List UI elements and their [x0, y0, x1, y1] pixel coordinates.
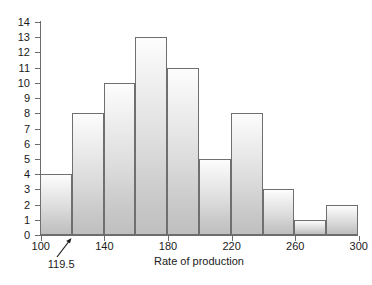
y-tick [35, 159, 40, 160]
x-tick-label: 300 [350, 240, 368, 252]
y-tick-label: 9 [12, 93, 30, 104]
y-tick-label: 1 [12, 215, 30, 226]
y-tick-label: 3 [12, 184, 30, 195]
y-tick [35, 68, 40, 69]
histogram-chart: 01234567891011121314 100140180220260300 … [0, 0, 372, 285]
histogram-bar [167, 68, 199, 235]
y-tick-label: 7 [12, 124, 30, 135]
y-tick-label: 4 [12, 169, 30, 180]
y-tick [35, 235, 40, 236]
y-tick-label: 12 [12, 47, 30, 58]
y-tick [35, 83, 40, 84]
histogram-bar [326, 205, 358, 235]
histogram-bar [40, 174, 72, 235]
y-tick-label: 2 [12, 200, 30, 211]
histogram-bar [294, 220, 326, 235]
y-tick [35, 22, 40, 23]
y-tick [35, 52, 40, 53]
x-tick-label: 220 [222, 240, 240, 252]
y-tick-label: 14 [12, 17, 30, 28]
y-tick [35, 98, 40, 99]
histogram-bar [263, 189, 295, 235]
x-axis-line [40, 235, 358, 236]
y-tick [35, 129, 40, 130]
y-tick-label: 11 [12, 63, 30, 74]
x-tick-label: 140 [95, 240, 113, 252]
y-tick-label: 8 [12, 108, 30, 119]
histogram-bar [199, 159, 231, 235]
x-tick-label: 180 [159, 240, 177, 252]
y-tick [35, 37, 40, 38]
y-tick-label: 13 [12, 32, 30, 43]
y-tick [35, 144, 40, 145]
y-tick-label: 6 [12, 139, 30, 150]
y-tick [35, 113, 40, 114]
histogram-bar [231, 113, 263, 235]
y-tick-label: 10 [12, 78, 30, 89]
x-axis-title: Rate of production [154, 255, 244, 267]
x-tick-label: 260 [286, 240, 304, 252]
histogram-bar [104, 83, 136, 235]
annotation-label-119-5: 119.5 [48, 258, 75, 270]
histogram-bar [135, 37, 167, 235]
x-tick-label: 100 [32, 240, 50, 252]
y-tick-label: 0 [12, 230, 30, 241]
annotation-arrow-icon [54, 238, 76, 258]
histogram-bar [72, 113, 104, 235]
y-tick-label: 5 [12, 154, 30, 165]
